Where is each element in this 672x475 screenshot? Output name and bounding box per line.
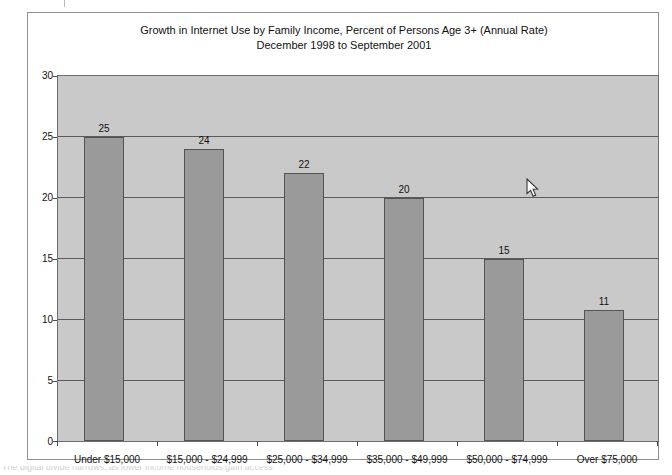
chart-title: Growth in Internet Use by Family Income,…: [28, 23, 660, 53]
x-tick-mark-5: [557, 441, 558, 446]
gridline-10: [58, 319, 658, 320]
bar-value-label-1: 25: [74, 123, 134, 134]
x-tick-mark-3: [357, 441, 358, 446]
bottom-cutoff-strip: The digital divide narrows, as lower inc…: [0, 466, 672, 475]
bar-value-label-6: 11: [574, 296, 634, 307]
x-tick-mark-6: [657, 441, 658, 446]
chart-title-line2: December 1998 to September 2001: [28, 38, 660, 53]
y-tick-label-25: 25: [27, 132, 53, 142]
y-tick-label-0: 0: [27, 437, 53, 447]
gridline-15: [58, 258, 658, 259]
bar-value-label-5: 15: [474, 245, 534, 256]
bar-50000-74999[interactable]: [484, 259, 524, 441]
mouse-pointer-icon: [526, 178, 540, 198]
y-tick-label-30: 30: [27, 71, 53, 81]
plot-area: 25 24 22 20 15 11: [57, 75, 659, 442]
y-tick-label-10: 10: [27, 315, 53, 325]
y-tick-label-5: 5: [27, 376, 53, 386]
chart-frame: Growth in Internet Use by Family Income,…: [27, 12, 659, 460]
gridline-25: [58, 136, 658, 137]
bar-value-label-3: 22: [274, 159, 334, 170]
bar-over-75000[interactable]: [584, 310, 624, 441]
bar-under-15000[interactable]: [84, 137, 124, 441]
gridline-5: [58, 380, 658, 381]
x-tick-mark-1: [157, 441, 158, 446]
y-tick-label-15: 15: [27, 254, 53, 264]
bar-25000-34999[interactable]: [284, 173, 324, 441]
x-tick-mark-0: [57, 441, 58, 446]
bar-value-label-2: 24: [174, 135, 234, 146]
x-tick-mark-4: [457, 441, 458, 446]
bottom-cutoff-text: The digital divide narrows, as lower inc…: [2, 466, 273, 472]
top-cutoff-strip: [0, 0, 672, 11]
top-tick-mark: [64, 0, 65, 7]
bar-15000-24999[interactable]: [184, 149, 224, 441]
bar-35000-49999[interactable]: [384, 198, 424, 441]
chart-title-line1: Growth in Internet Use by Family Income,…: [140, 24, 548, 36]
x-tick-mark-2: [257, 441, 258, 446]
x-category-label-6: Over $75,000: [548, 454, 666, 466]
y-tick-label-20: 20: [27, 193, 53, 203]
bar-value-label-4: 20: [374, 184, 434, 195]
gridline-20: [58, 197, 658, 198]
